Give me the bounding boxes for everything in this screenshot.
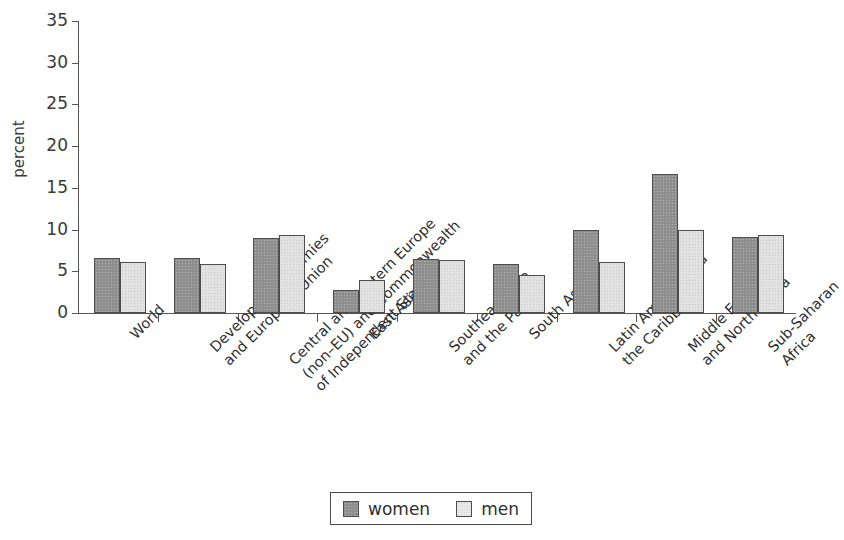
bar-women — [174, 258, 200, 313]
chart-legend: women men — [330, 492, 532, 525]
bar-women — [333, 290, 359, 313]
y-tick-label: 10 — [34, 221, 68, 238]
bar-women — [493, 264, 519, 313]
bar-group — [477, 21, 557, 313]
y-tick-label: 35 — [34, 12, 68, 29]
bar-men — [120, 262, 146, 313]
y-axis-title: percent — [10, 104, 28, 194]
y-tick-label: 25 — [34, 95, 68, 112]
legend-swatch-men-icon — [456, 501, 472, 517]
bar-group — [716, 21, 796, 313]
x-tick-mark — [317, 313, 318, 322]
bar-women — [94, 258, 120, 313]
bar-men — [599, 262, 625, 313]
y-tick-mark — [72, 313, 78, 314]
y-tick-label: 30 — [34, 54, 68, 71]
bar-women — [413, 259, 439, 313]
bar-group — [557, 21, 637, 313]
bar-men — [359, 280, 385, 313]
bar-group — [158, 21, 238, 313]
legend-entry-women: women — [343, 499, 430, 519]
y-tick-label: 15 — [34, 179, 68, 196]
legend-entry-men: men — [456, 499, 519, 519]
legend-swatch-women-icon — [343, 501, 359, 517]
bar-men — [200, 264, 226, 313]
bar-group — [238, 21, 318, 313]
bar-women — [253, 238, 279, 313]
plot-area — [78, 21, 796, 313]
x-axis-line — [78, 313, 796, 314]
bar-men — [439, 260, 465, 313]
y-tick-label: 5 — [34, 262, 68, 279]
y-tick-label: 0 — [34, 304, 68, 321]
legend-label-men: men — [481, 499, 519, 519]
bar-women — [573, 230, 599, 313]
bar-women — [652, 174, 678, 313]
bar-group — [78, 21, 158, 313]
bar-men — [519, 275, 545, 313]
legend-label-women: women — [368, 499, 430, 519]
bar-men — [678, 230, 704, 313]
bar-men — [279, 235, 305, 313]
bar-group — [636, 21, 716, 313]
bar-women — [732, 237, 758, 313]
y-tick-label: 20 — [34, 137, 68, 154]
bar-men — [758, 235, 784, 313]
